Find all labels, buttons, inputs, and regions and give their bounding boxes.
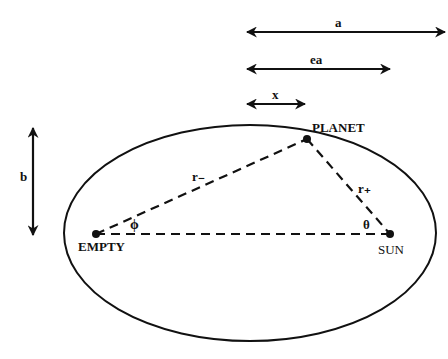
empty-label: EMPTY [78,239,126,254]
theta-angle-label: θ [363,217,370,232]
orbit-diagram: PLANET SUN EMPTY r₋ r₊ ϕ θ a ea x b [0,0,448,359]
b-label: b [20,169,27,184]
planet-label: PLANET [312,120,365,135]
r-plus-dashed-line [307,139,390,234]
phi-angle-label: ϕ [130,217,139,232]
planet-dot [303,135,311,143]
sun-label: SUN [378,242,405,257]
r-plus-label: r₊ [358,181,371,196]
empty-focus-dot [92,230,100,238]
ea-label: ea [310,52,323,67]
r-minus-label: r₋ [192,169,205,184]
x-label: x [272,87,279,102]
a-label: a [335,15,342,30]
r-minus-dashed-line [96,139,307,234]
sun-dot [386,230,394,238]
